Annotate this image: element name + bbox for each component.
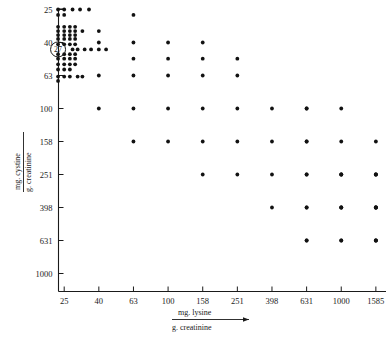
data-point [270,173,274,177]
data-point [87,8,91,12]
data-point [68,37,72,41]
data-point [97,29,101,33]
data-point [201,74,205,78]
y-tick-label: 63 [44,71,53,81]
data-point [104,48,108,52]
x-tick-label: 1585 [367,296,384,306]
data-point [305,173,309,177]
y-axis-label-denominator: g. creatinine [24,152,33,192]
data-point [62,37,66,41]
data-point [56,62,60,66]
x-axis-label-denominator: g. creatinine [172,323,212,332]
data-point [62,13,66,17]
data-point [201,57,205,61]
y-tick-label: 631 [40,236,53,246]
x-tick-labels: 25406310015825139863110001585 [60,296,384,306]
x-tick-label: 158 [196,296,209,306]
x-tick-label: 40 [95,296,104,306]
data-point [73,25,77,29]
data-point [201,41,205,45]
data-points-group [56,8,378,243]
data-point [56,68,60,72]
data-point [339,173,343,177]
data-point [62,25,66,29]
scatter-plot-figure: 2540631001582513986311000 25406310015825… [0,0,389,345]
data-point [270,206,274,210]
data-point [73,33,77,37]
data-point [62,68,66,72]
data-point [68,68,72,72]
data-point [201,107,205,111]
y-tick-label: 251 [40,170,53,180]
data-point [68,52,72,56]
data-point [80,29,84,33]
data-point [305,107,309,111]
data-point [71,8,75,12]
data-point [73,52,77,56]
data-point [83,48,87,52]
data-point [68,62,72,66]
data-point [270,140,274,144]
x-tick-label: 63 [129,296,138,306]
data-point [80,75,84,79]
data-point [305,140,309,144]
data-point [56,29,60,33]
data-point [56,25,60,29]
x-tick-label: 100 [162,296,175,306]
data-point [235,140,239,144]
data-point [132,13,136,17]
data-point [235,107,239,111]
data-point [73,62,77,66]
data-point [76,75,80,79]
data-point [166,74,170,78]
data-point [68,29,72,33]
data-point [62,8,66,12]
data-point [235,173,239,177]
data-point [71,48,75,52]
data-point [56,75,60,79]
data-point [270,107,274,111]
data-point [68,75,72,79]
data-point [56,79,60,83]
data-point [89,48,93,52]
data-point [339,107,343,111]
data-point [201,173,205,177]
x-axis-arrow-icon [243,317,249,322]
x-tick-label: 398 [266,296,279,306]
data-point [68,33,72,37]
data-point [68,25,72,29]
data-point [374,206,378,210]
data-point [132,107,136,111]
data-point [166,41,170,45]
annotation-label: 27 [54,45,62,54]
data-point [68,57,72,61]
y-axis-label-numerator: mg. cystine [13,153,22,190]
data-point [56,33,60,37]
data-point [68,42,72,46]
data-point [62,29,66,33]
data-point [62,75,66,79]
x-axis-label-numerator: mg. lysine [178,308,212,317]
data-point [201,140,205,144]
data-point [73,42,77,46]
data-point [62,62,66,66]
data-point [166,57,170,61]
data-point [76,48,80,52]
y-tick-label: 1000 [36,269,53,279]
data-point [73,57,77,61]
data-point [97,74,101,78]
x-tick-marks [64,287,376,292]
x-tick-label: 631 [300,296,313,306]
data-point [132,140,136,144]
data-point [132,57,136,61]
data-point [73,37,77,41]
y-tick-labels: 2540631001582513986311000 [36,5,53,279]
data-point [339,239,343,243]
y-axis-label: mg. cystine g. creatinine [13,132,33,192]
y-tick-label: 398 [40,203,53,213]
plot-canvas: 2540631001582513986311000 25406310015825… [0,0,389,345]
data-point [132,74,136,78]
data-point [62,57,66,61]
data-point [305,206,309,210]
data-point [97,48,101,52]
